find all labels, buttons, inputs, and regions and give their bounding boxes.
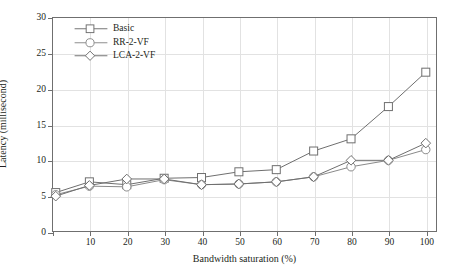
legend-label-lca-2-vf: LCA-2-VF bbox=[109, 49, 155, 63]
y-axis-tick bbox=[48, 126, 53, 127]
y-axis-tick-label: 0 bbox=[41, 228, 46, 238]
x-axis-tick-label: 10 bbox=[86, 238, 96, 248]
x-axis-tick-label: 80 bbox=[347, 238, 357, 248]
x-axis-tick-origin bbox=[53, 231, 54, 236]
x-axis-tick bbox=[389, 231, 390, 236]
x-axis-tick bbox=[128, 231, 129, 236]
gridline-vertical bbox=[427, 18, 428, 231]
x-axis-tick-label: 50 bbox=[235, 238, 245, 248]
x-axis-tick bbox=[315, 231, 316, 236]
y-axis-tick-label: 10 bbox=[37, 157, 47, 167]
y-axis-tick bbox=[48, 233, 53, 234]
legend-symbol-square bbox=[73, 22, 109, 36]
legend-symbol-circle bbox=[73, 36, 109, 50]
gridline-vertical bbox=[352, 18, 353, 231]
y-axis-tick-label: 20 bbox=[37, 85, 47, 95]
x-axis-title: Bandwidth saturation (%) bbox=[52, 253, 437, 264]
gridline-vertical bbox=[277, 18, 278, 231]
x-axis-tick-label: 100 bbox=[420, 238, 434, 248]
legend-item-lca-2-vf: LCA-2-VF bbox=[73, 49, 155, 63]
y-axis-tick bbox=[48, 197, 53, 198]
x-axis-tick-label: 20 bbox=[123, 238, 133, 248]
gridline-vertical bbox=[165, 18, 166, 231]
gridline-horizontal bbox=[53, 90, 436, 91]
x-axis-tick-label: 60 bbox=[273, 238, 283, 248]
legend-label-rr-2-vf: RR-2-VF bbox=[109, 36, 149, 50]
y-axis-tick bbox=[48, 18, 53, 19]
x-axis-tick-label: 30 bbox=[160, 238, 170, 248]
x-axis-tick-label: 40 bbox=[198, 238, 208, 248]
gridline-vertical bbox=[203, 18, 204, 231]
gridline-horizontal bbox=[53, 197, 436, 198]
x-axis-tick bbox=[240, 231, 241, 236]
gridline-horizontal bbox=[53, 126, 436, 127]
y-axis-tick-label: 25 bbox=[37, 49, 47, 59]
x-axis-tick bbox=[352, 231, 353, 236]
chart-legend: Basic RR-2-VF LCA-2-VF bbox=[73, 22, 155, 63]
chart-figure: Latency (millisecond) Bandwidth saturati… bbox=[0, 0, 453, 276]
x-axis-tick bbox=[90, 231, 91, 236]
y-axis-tick-label: 15 bbox=[37, 121, 47, 131]
x-axis-tick bbox=[165, 231, 166, 236]
x-axis-tick bbox=[427, 231, 428, 236]
y-axis-tick-label: 5 bbox=[41, 192, 46, 202]
legend-symbol-diamond bbox=[73, 49, 109, 63]
legend-label-basic: Basic bbox=[109, 22, 134, 36]
x-axis-tick bbox=[277, 231, 278, 236]
y-axis-tick bbox=[48, 90, 53, 91]
y-axis-title: Latency (millisecond) bbox=[0, 80, 8, 168]
y-axis-tick-label: 30 bbox=[37, 13, 47, 23]
x-axis-tick-label: 70 bbox=[310, 238, 320, 248]
x-axis-tick bbox=[203, 231, 204, 236]
gridline-vertical bbox=[240, 18, 241, 231]
x-axis-tick-label: 90 bbox=[385, 238, 395, 248]
gridline-horizontal bbox=[53, 161, 436, 162]
gridline-vertical bbox=[389, 18, 390, 231]
gridline-vertical bbox=[315, 18, 316, 231]
y-axis-tick bbox=[48, 54, 53, 55]
legend-item-rr-2-vf: RR-2-VF bbox=[73, 36, 155, 50]
y-axis-tick bbox=[48, 161, 53, 162]
legend-item-basic: Basic bbox=[73, 22, 155, 36]
